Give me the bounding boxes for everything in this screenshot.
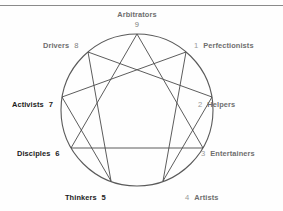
point-number-1: 1 — [194, 41, 198, 50]
point-number-5: 5 — [102, 193, 106, 202]
point-number-4: 4 — [185, 193, 189, 202]
point-label-2: Helpers — [207, 100, 235, 109]
enneagram-point-9[interactable]: Arbitrators9 — [113, 10, 161, 29]
point-label-7: Activists — [12, 100, 44, 109]
enneagram-point-3[interactable]: 3Entertainers — [201, 149, 255, 158]
enneagram-point-6[interactable]: Disciples6 — [17, 149, 60, 158]
point-number-7: 7 — [49, 100, 53, 109]
point-number-6: 6 — [55, 149, 59, 158]
point-label-3: Entertainers — [210, 149, 254, 158]
point-number-3: 3 — [201, 149, 205, 158]
enneagram-diagram-canvas: Arbitrators9 1Perfectionists 2Helpers 3E… — [0, 0, 283, 211]
point-label-4: Artists — [194, 193, 218, 202]
enneagram-point-5[interactable]: Thinkers5 — [65, 193, 106, 202]
enneagram-point-8[interactable]: Drivers8 — [43, 41, 79, 50]
point-label-1: Perfectionists — [203, 41, 253, 50]
point-label-9: Arbitrators — [117, 10, 156, 19]
enneagram-point-4[interactable]: 4Artists — [185, 193, 218, 202]
point-label-5: Thinkers — [65, 193, 97, 202]
point-number-9: 9 — [113, 20, 161, 29]
enneagram-point-1[interactable]: 1Perfectionists — [194, 41, 254, 50]
point-number-2: 2 — [198, 100, 202, 109]
point-label-8: Drivers — [43, 41, 69, 50]
point-label-6: Disciples — [17, 149, 50, 158]
enneagram-hexad-1-4-2-8-5-7 — [62, 52, 212, 181]
enneagram-triangle-9-3-6 — [71, 34, 203, 148]
point-number-8: 8 — [74, 41, 78, 50]
enneagram-point-7[interactable]: Activists7 — [12, 100, 53, 109]
enneagram-point-2[interactable]: 2Helpers — [198, 100, 235, 109]
enneagram-circle — [61, 34, 213, 186]
